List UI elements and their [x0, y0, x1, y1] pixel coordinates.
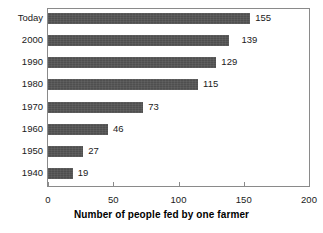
y-axis-label: 1980 [0, 77, 43, 91]
bar [48, 35, 229, 46]
bar [48, 57, 216, 68]
bar-value-label: 73 [148, 100, 159, 114]
x-axis-tick-label: 100 [171, 193, 187, 206]
bar-value-label: 46 [113, 122, 124, 136]
y-axis-label: 1970 [0, 100, 43, 114]
x-axis-title: Number of people fed by one farmer [0, 209, 323, 220]
bar [48, 79, 198, 90]
bar [48, 146, 83, 157]
bar [48, 124, 108, 135]
y-axis-label: 1990 [0, 55, 43, 69]
x-axis-tick-label: 0 [45, 193, 50, 206]
y-axis-label: 1950 [0, 144, 43, 158]
y-axis-label: Today [0, 11, 43, 25]
bars-layer: 15513912911573462719 [48, 9, 309, 186]
x-axis-tick-label: 200 [301, 193, 317, 206]
x-axis-tick-label: 50 [108, 193, 119, 206]
bar-row: 115 [48, 75, 309, 97]
x-axis-tick-label: 150 [236, 193, 252, 206]
bar-value-label: 129 [221, 55, 237, 69]
bar-value-label: 139 [241, 33, 257, 47]
bar-row: 155 [48, 9, 309, 31]
x-axis-tick [244, 182, 245, 187]
y-axis-category-labels: Today2000199019801970196019501940 [0, 9, 43, 186]
x-axis: 050100150200 [47, 187, 310, 209]
bar-row: 27 [48, 142, 309, 164]
x-axis-tick [113, 182, 114, 187]
bar [48, 102, 143, 113]
bar-chart: Today2000199019801970196019501940 155139… [0, 0, 323, 233]
y-axis-label: 1940 [0, 166, 43, 180]
bar-row: 129 [48, 53, 309, 75]
y-axis-label: 2000 [0, 33, 43, 47]
bar-row: 46 [48, 120, 309, 142]
x-axis-tick [179, 182, 180, 187]
x-axis-tick [48, 182, 49, 187]
bar [48, 168, 73, 179]
bar-value-label: 155 [255, 11, 271, 25]
bar-value-label: 19 [78, 166, 89, 180]
bar [48, 13, 250, 24]
bar-value-label: 27 [88, 144, 99, 158]
bar-row: 73 [48, 98, 309, 120]
bar-row: 139 [48, 31, 309, 53]
x-axis-tick [309, 182, 310, 187]
y-axis-label: 1960 [0, 122, 43, 136]
bar-value-label: 115 [203, 77, 218, 91]
